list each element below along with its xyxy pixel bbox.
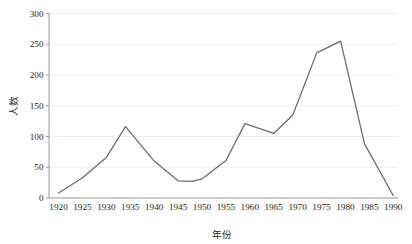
y-tick-labels-group: 050100150200250300 [30,9,44,204]
axes-group [46,14,49,199]
x-tick-label: 1945 [169,202,188,212]
y-tick-label: 200 [30,70,44,80]
chart-canvas: 050100150200250300 192019251930193519401… [0,0,412,244]
x-tick-label: 1990 [384,202,403,212]
y-tick-label: 300 [30,9,44,19]
x-tick-label: 1970 [288,202,307,212]
line-chart: 050100150200250300 192019251930193519401… [0,0,412,244]
x-tick-labels-group: 1920192519301935194019451950195519601965… [49,202,402,212]
x-tick-label: 1930 [97,202,116,212]
x-tick-label: 1965 [265,202,284,212]
x-tick-label: 1925 [73,202,92,212]
y-tick-label: 100 [30,132,44,142]
y-axis-title: 人数 [8,96,19,116]
data-series-line [59,41,394,195]
x-tick-label: 1960 [241,202,260,212]
y-tick-label: 50 [34,162,44,172]
x-tick-label: 1980 [336,202,355,212]
x-tick-label: 1955 [217,202,236,212]
x-tick-label: 1935 [121,202,140,212]
gridlines-group [49,14,398,199]
x-tick-label: 1940 [145,202,164,212]
x-tick-label: 1950 [193,202,212,212]
x-tick-label: 1920 [49,202,68,212]
y-tick-label: 150 [30,101,44,111]
y-tick-label: 250 [30,39,44,49]
x-axis-title: 年份 [212,229,232,240]
x-tick-label: 1985 [360,202,379,212]
y-tick-label: 0 [39,193,44,203]
x-tick-label: 1975 [312,202,331,212]
